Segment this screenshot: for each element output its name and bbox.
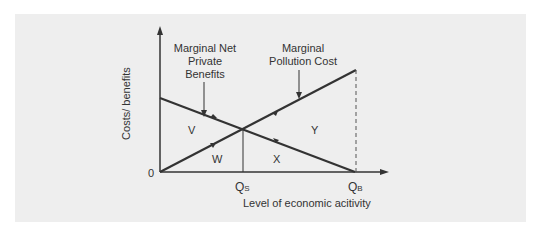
y-axis-label-wrap: Costs/ benefits [118,55,134,155]
origin-label: 0 [148,167,154,179]
mpc-curve [160,70,356,172]
region-w: W [212,153,222,165]
mnpb-label-line1: Marginal Net [165,42,245,55]
qb-sub: B [357,184,362,193]
mnpb-label: Marginal Net Private Benefits [165,42,245,81]
region-x: X [273,153,280,165]
mpc-label-line1: Marginal [261,42,345,55]
qs-tick-label: QS [235,180,250,194]
qb-tick-label: QB [348,180,363,194]
mnpb-label-line3: Benefits [165,68,245,81]
region-y: Y [311,124,318,136]
mpc-label-line2: Pollution Cost [261,55,345,68]
mpc-label: Marginal Pollution Cost [261,42,345,68]
y-axis-label: Costs/ benefits [120,54,133,154]
y-axis-arrow-icon [157,26,163,35]
region-v: V [188,124,195,136]
qb-main: Q [348,180,357,194]
qs-main: Q [235,180,244,194]
qs-sub: S [244,184,249,193]
x-axis-arrow-icon [380,169,389,175]
x-axis-label: Level of economic acitivity [243,197,371,210]
mnpb-direction-arrow-icon [210,114,217,118]
mnpb-label-line2: Private [165,55,245,68]
